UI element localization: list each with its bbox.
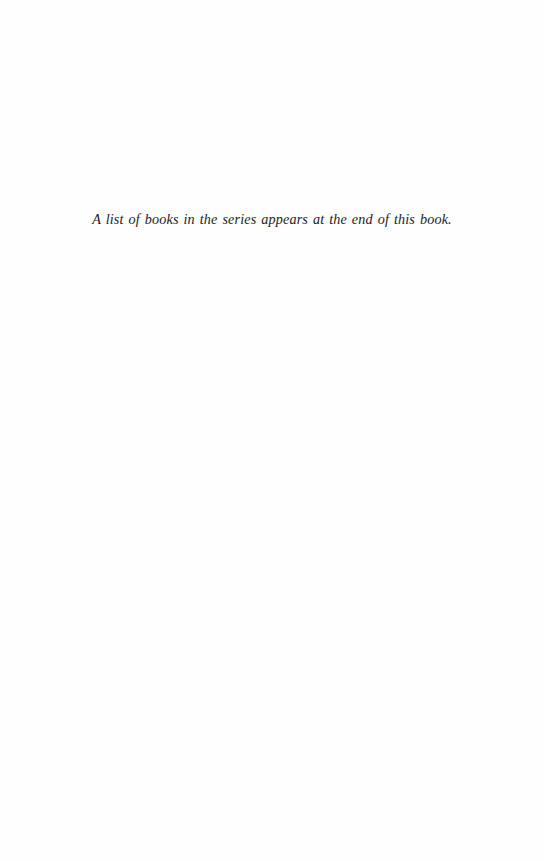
book-page: A list of books in the series appears at… [0, 0, 544, 861]
series-list-note: A list of books in the series appears at… [0, 211, 544, 227]
